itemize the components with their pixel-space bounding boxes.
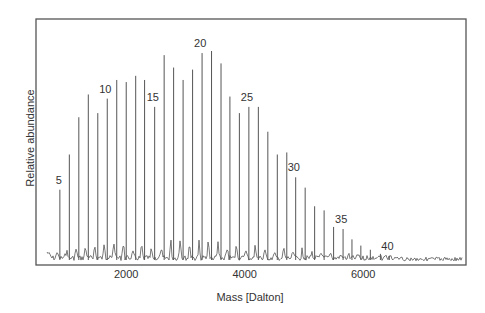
peak-label: 5 [56,174,62,186]
plot-area [0,0,485,313]
y-axis-label: Relative abundance [24,78,36,198]
peak-label: 25 [241,91,253,103]
baseline-noise [47,240,462,261]
peak-label: 40 [381,240,393,252]
x-axis-label: Mass [Dalton] [200,291,300,303]
mass-spectrum-chart: Relative abundance Mass [Dalton] 2000400… [0,0,485,313]
x-tick-label: 4000 [233,268,257,280]
x-tick-label: 6000 [351,268,375,280]
peak-label: 30 [288,161,300,173]
peak-label: 35 [335,213,347,225]
peak-label: 10 [99,83,111,95]
plot-frame [36,19,466,265]
x-tick-label: 2000 [114,268,138,280]
peak-label: 20 [194,37,206,49]
peak-label: 15 [147,91,159,103]
